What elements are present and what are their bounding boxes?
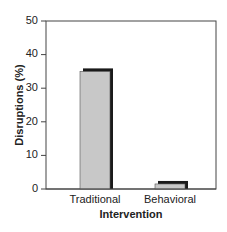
y-tick-10: 10 bbox=[14, 148, 38, 160]
y-tick-0: 0 bbox=[14, 182, 38, 194]
y-tick-50: 50 bbox=[14, 14, 38, 26]
plot-frame bbox=[46, 21, 216, 189]
x-category-behavioral: Behavioral bbox=[144, 193, 196, 205]
y-tick-20: 20 bbox=[14, 115, 38, 127]
bar-behavioral bbox=[155, 184, 185, 189]
bar-traditional bbox=[80, 71, 110, 189]
y-axis-label: Disruptions (%) bbox=[13, 64, 25, 145]
x-category-traditional: Traditional bbox=[70, 193, 121, 205]
bar-chart: Disruptions (%) Intervention 0 10 20 30 … bbox=[0, 0, 227, 232]
x-axis-label: Intervention bbox=[100, 208, 163, 220]
y-tick-40: 40 bbox=[14, 47, 38, 59]
y-tick-30: 30 bbox=[14, 81, 38, 93]
